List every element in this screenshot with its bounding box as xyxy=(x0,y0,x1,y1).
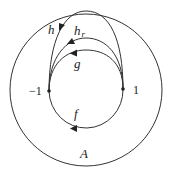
label-h-r: hr xyxy=(74,23,86,39)
annulus-diagram: −1 1 f g hr h A xyxy=(0,0,169,177)
label-h: h xyxy=(48,22,55,37)
label-minus-one: −1 xyxy=(29,84,42,98)
point-minus-one xyxy=(47,89,51,93)
path-g xyxy=(49,50,123,91)
label-f: f xyxy=(74,106,80,121)
label-region-a: A xyxy=(79,146,88,161)
path-h-r xyxy=(49,38,123,91)
label-g: g xyxy=(74,56,81,71)
path-f xyxy=(49,89,123,128)
label-h-r-main: h xyxy=(74,23,81,38)
point-one xyxy=(121,87,125,91)
label-one: 1 xyxy=(133,83,139,97)
label-h-r-subscript: r xyxy=(82,29,86,39)
